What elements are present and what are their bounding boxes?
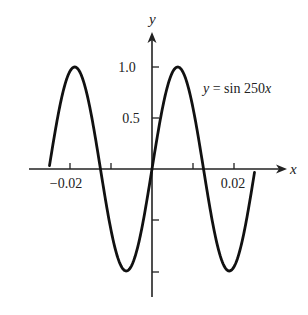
- x-tick-label-002: 0.02: [221, 176, 246, 191]
- y-axis-label: y: [147, 11, 156, 27]
- y-tick-label-05: 0.5: [122, 111, 140, 126]
- y-tick-label-1: 1.0: [118, 60, 136, 75]
- curve-equation-label: y = sin 250x: [201, 81, 272, 96]
- eq-rest: = sin 250: [209, 81, 265, 96]
- x-axis-label: x: [289, 161, 297, 177]
- x-tick-label-neg-002: −0.02: [50, 176, 82, 191]
- sine-chart: y x 1.0 0.5 −0.02 0.02 y = sin 250x: [0, 0, 308, 315]
- eq-x: x: [264, 81, 272, 96]
